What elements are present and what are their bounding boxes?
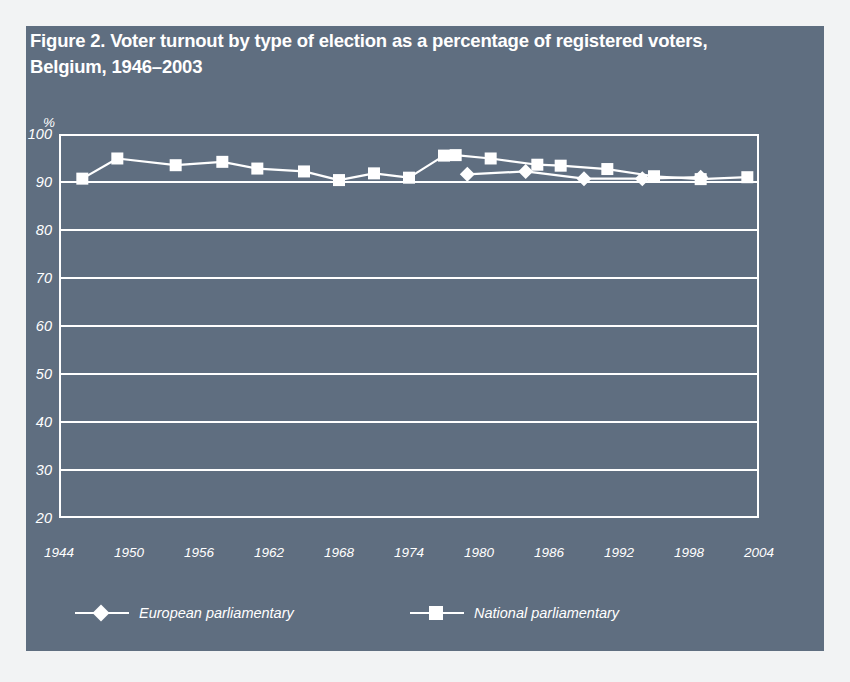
x-axis-tick-labels: 1944195019561962196819741980198619921998…	[59, 545, 759, 565]
y-tick-label: 20	[12, 510, 52, 526]
legend-label: National parliamentary	[464, 605, 619, 621]
data-point-square	[216, 156, 228, 168]
data-point-square	[648, 170, 660, 182]
data-point-square	[111, 152, 123, 164]
x-tick-label: 1974	[374, 545, 444, 560]
y-tick-label: 40	[12, 414, 52, 430]
data-point-square	[485, 152, 497, 164]
plot-area	[59, 134, 759, 518]
legend-label: European parliamentary	[129, 605, 294, 621]
x-tick-label: 1962	[234, 545, 304, 560]
x-tick-label: 2004	[724, 545, 794, 560]
data-point-square	[170, 159, 182, 171]
y-tick-label: 100	[12, 126, 52, 142]
x-tick-label: 1956	[164, 545, 234, 560]
chart-legend: European parliamentaryNational parliamen…	[75, 600, 735, 630]
legend-square-icon	[410, 603, 464, 623]
y-tick-label: 50	[12, 366, 52, 382]
data-point-square	[251, 163, 263, 175]
x-tick-label: 1998	[654, 545, 724, 560]
x-tick-label: 1986	[514, 545, 584, 560]
series-square	[76, 149, 753, 186]
data-point-diamond	[460, 167, 475, 182]
y-tick-label: 80	[12, 222, 52, 238]
x-tick-label: 1950	[94, 545, 164, 560]
legend-marker-square	[429, 606, 443, 620]
y-tick-label: 60	[12, 318, 52, 334]
y-tick-label: 90	[12, 174, 52, 190]
data-point-square	[741, 171, 753, 183]
data-point-square	[298, 165, 310, 177]
legend-diamond-icon	[75, 603, 129, 623]
chart-series-layer	[59, 134, 759, 518]
data-point-square	[333, 174, 345, 186]
x-tick-label: 1980	[444, 545, 514, 560]
data-point-square	[76, 173, 88, 185]
data-point-diamond	[577, 171, 592, 186]
legend-entry: National parliamentary	[410, 600, 619, 626]
x-tick-label: 1992	[584, 545, 654, 560]
x-tick-label: 1944	[24, 545, 94, 560]
data-point-square	[450, 149, 462, 161]
legend-marker-diamond	[93, 605, 110, 622]
data-point-square	[695, 173, 707, 185]
figure-container: Figure 2. Voter turnout by type of elect…	[0, 0, 850, 682]
data-point-diamond	[518, 164, 533, 179]
data-point-square	[438, 150, 450, 162]
data-point-square	[601, 163, 613, 175]
data-point-square	[531, 159, 543, 171]
legend-entry: European parliamentary	[75, 600, 294, 626]
data-point-square	[368, 167, 380, 179]
x-tick-label: 1968	[304, 545, 374, 560]
y-tick-label: 30	[12, 462, 52, 478]
data-point-square	[403, 172, 415, 184]
y-axis-tick-labels: 1009080706050403020	[0, 134, 52, 518]
data-point-square	[555, 160, 567, 172]
y-tick-label: 70	[12, 270, 52, 286]
figure-title: Figure 2. Voter turnout by type of elect…	[30, 28, 730, 80]
